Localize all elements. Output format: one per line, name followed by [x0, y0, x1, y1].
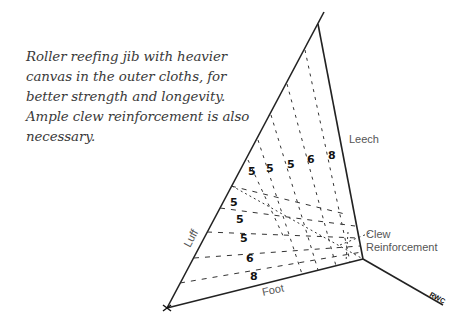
leech-weight: 5 — [266, 162, 274, 175]
leech-label: Leech — [349, 133, 379, 145]
leech-weight: 5 — [287, 158, 295, 171]
luff-label: Luff — [181, 226, 201, 248]
foot-weight: 6 — [246, 252, 254, 265]
foot-weight: 5 — [240, 232, 248, 245]
clew-label-line1: Clew — [366, 228, 391, 240]
foot-weight: 5 — [230, 196, 238, 209]
foot-panel-seams — [180, 186, 362, 283]
foot-weight: 8 — [250, 270, 258, 283]
sail-diagram: Luff Leech Foot Clew Reinforcement RWC 5… — [0, 0, 463, 326]
leech-weight: 8 — [328, 149, 336, 162]
clew-label-line2: Reinforcement — [366, 241, 438, 253]
sail-outline — [167, 12, 443, 308]
leech-panel-seams — [248, 50, 350, 274]
mitre-line — [232, 186, 363, 259]
leech-weight: 6 — [307, 153, 315, 166]
foot-line — [167, 259, 363, 308]
leech-weight: 5 — [248, 165, 256, 178]
foot-weight: 5 — [236, 213, 244, 226]
